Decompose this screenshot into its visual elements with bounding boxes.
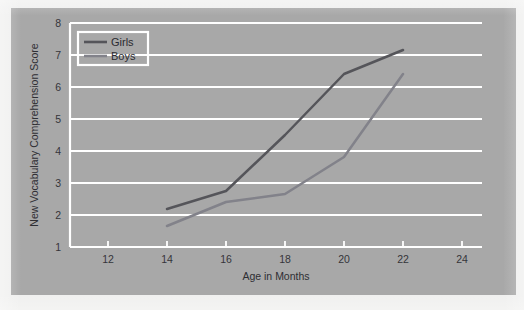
y-tick-label: 5 [55,113,61,125]
y-axis-title: New Vocabulary Comprehension Score [28,43,40,226]
x-tick-label: 16 [220,253,232,265]
y-tick-label: 8 [55,17,61,29]
x-tick-label: 14 [161,253,173,265]
line-chart: 12 14 16 18 20 22 24 1 2 3 4 5 6 7 8 Age… [0,0,524,310]
chart-legend: Girls Boys [78,32,148,65]
x-tick-label: 12 [102,253,114,265]
y-tick-labels: 1 2 3 4 5 6 7 8 [55,17,61,253]
series-line-girls [167,50,403,209]
y-tick-label: 2 [55,209,61,221]
legend-label-boys: Boys [111,50,136,62]
chart-screenshot: 12 14 16 18 20 22 24 1 2 3 4 5 6 7 8 Age… [0,0,524,310]
x-tick-label: 24 [456,253,468,265]
y-tick-label: 1 [55,241,61,253]
y-tick-label: 4 [55,145,61,157]
x-tick-label: 20 [338,253,350,265]
x-axis-title: Age in Months [242,270,309,282]
y-tick-label: 3 [55,177,61,189]
legend-label-girls: Girls [111,36,134,48]
x-tick-labels: 12 14 16 18 20 22 24 [102,253,468,265]
x-tick-label: 18 [279,253,291,265]
series-plot-area [167,50,403,226]
x-tick-label: 22 [397,253,409,265]
y-tick-label: 7 [55,49,61,61]
y-tick-label: 6 [55,81,61,93]
